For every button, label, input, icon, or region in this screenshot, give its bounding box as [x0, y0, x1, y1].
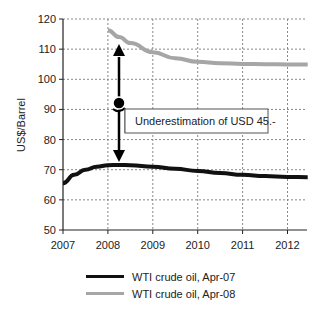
oil-price-chart: 5060708090100110120200720082009201020112…: [0, 0, 321, 312]
y-tick-label: 50: [44, 224, 56, 236]
data-series: [63, 30, 308, 183]
legend-label: WTI crude oil, Apr-07: [132, 271, 235, 283]
legend-swatch-black: [86, 275, 124, 278]
legend-swatch-gray: [86, 292, 124, 295]
y-tick-label: 80: [44, 134, 56, 146]
legend-label: WTI crude oil, Apr-08: [132, 288, 235, 300]
y-tick-label: 110: [38, 43, 56, 55]
legend-item-apr08: WTI crude oil, Apr-08: [86, 285, 235, 302]
x-tick-label: 2009: [141, 239, 165, 251]
arrow-down-icon: [113, 150, 125, 162]
y-tick-label: 90: [44, 103, 56, 115]
arrow-up-icon: [113, 44, 125, 56]
x-tick-label: 2010: [185, 239, 209, 251]
legend-item-apr07: WTI crude oil, Apr-07: [86, 268, 235, 285]
x-tick-label: 2012: [275, 239, 299, 251]
series-line-apr08: [108, 30, 308, 64]
marker-dot: [113, 97, 125, 109]
y-tick-label: 70: [44, 164, 56, 176]
x-tick-label: 2007: [51, 239, 75, 251]
legend: WTI crude oil, Apr-07 WTI crude oil, Apr…: [86, 268, 235, 302]
annotation-text: Underestimation of USD 45.-: [135, 115, 276, 127]
x-tick-label: 2011: [231, 239, 255, 251]
y-tick-label: 120: [38, 13, 56, 25]
series-line-apr07: [63, 165, 308, 183]
y-axis-label: US$/Barrel: [15, 98, 27, 152]
y-tick-label: 100: [38, 73, 56, 85]
y-tick-label: 60: [44, 194, 56, 206]
x-tick-label: 2008: [96, 239, 120, 251]
